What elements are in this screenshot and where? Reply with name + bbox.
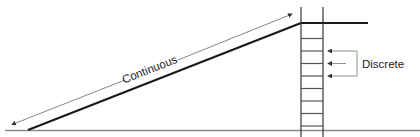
continuous-vs-discrete-diagram: Continuous Discrete — [0, 0, 420, 137]
continuous-ramp — [28, 23, 301, 130]
discrete-label: Discrete — [362, 58, 404, 70]
continuous-label: Continuous — [120, 53, 179, 86]
ladder-rungs — [301, 39, 323, 127]
discrete-bracket — [354, 51, 357, 76]
discrete-arrows — [328, 51, 354, 76]
